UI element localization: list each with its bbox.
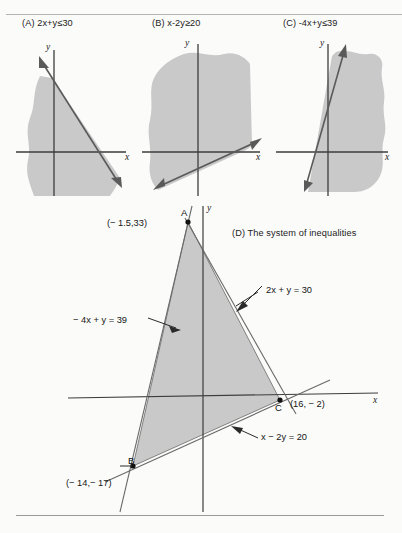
panel-c-y-label: y [320, 38, 324, 48]
vertex-c-name: C [275, 402, 282, 413]
panel-a-x-label: x [125, 152, 129, 162]
panel-b-svg [140, 34, 272, 196]
panel-a-graph [14, 34, 142, 196]
main-x-label: x [373, 395, 377, 405]
panel-a-shaded-region [27, 76, 120, 196]
panel-a-caption: (A) 2x+y≤30 [22, 18, 73, 28]
panel-b-shaded-region [149, 53, 252, 190]
panel-a-arrow-up-icon [39, 56, 49, 68]
panel-b-graph [140, 34, 272, 196]
top-rule [6, 14, 402, 15]
panel-b-caption: (B) x-2y≥20 [152, 18, 201, 28]
vertex-a-dot [185, 219, 190, 224]
arrow-2x-y-30-icon [236, 286, 262, 312]
figure-page: (A) 2x+y≤30 x y (B) x-2y≥20 [0, 0, 402, 533]
bottom-rule [16, 515, 384, 516]
vertex-a-coords: (− 1.5,33) [107, 218, 147, 228]
vertex-a-name: A [181, 207, 187, 218]
panel-c-arrow-up-icon [338, 44, 347, 58]
panel-c-shaded-region [308, 51, 385, 192]
main-svg [0, 200, 402, 520]
pointer-line-2x-y-30 [236, 292, 258, 306]
panel-c-x-label: x [385, 152, 389, 162]
main-y-label: y [207, 203, 211, 213]
panel-c-svg [274, 34, 400, 196]
vertex-c-coords: (16, − 2) [290, 399, 325, 409]
panel-c-caption: (C) -4x+y≤39 [283, 18, 338, 28]
feasible-region-triangle [133, 222, 280, 466]
panel-b-x-label: x [256, 152, 260, 162]
panel-a-svg [14, 34, 142, 196]
edge-label-minus4x-y-39: − 4x + y = 39 [73, 315, 127, 325]
main-graph [0, 200, 402, 520]
main-caption: (D) The system of inequalities [232, 228, 356, 238]
panel-a-y-label: y [46, 42, 50, 52]
edge-label-2x-y-30: 2x + y = 30 [266, 285, 312, 295]
vertex-b-coords: (− 14,− 17) [66, 478, 111, 488]
edge-label-x-2y-20: x − 2y = 20 [261, 432, 307, 442]
panel-b-y-label: y [185, 38, 189, 48]
arrow-x-2y-20-icon [231, 426, 258, 438]
panel-c-graph [274, 34, 400, 196]
vertex-b-name: B [128, 455, 134, 466]
